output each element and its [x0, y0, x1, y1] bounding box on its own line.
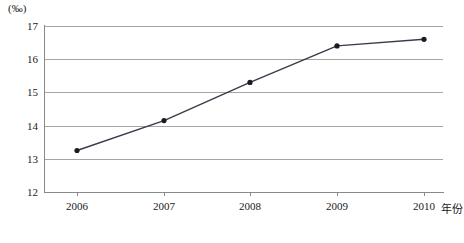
x-tick-label-2008: 2008 — [220, 200, 280, 212]
y-tick-label-17: 17 — [4, 20, 38, 32]
y-tick-label-14: 14 — [4, 120, 38, 132]
x-tick-label-2009: 2009 — [307, 200, 367, 212]
gridline-15 — [44, 92, 443, 93]
y-tick-label-12: 12 — [4, 186, 38, 198]
data-point-2010 — [421, 37, 426, 42]
x-axis-line — [44, 192, 444, 193]
x-tick-mark-2006 — [77, 192, 78, 196]
gridline-14 — [44, 126, 443, 127]
y-axis-line — [44, 25, 45, 193]
gridline-17 — [44, 26, 443, 27]
data-point-2009 — [334, 43, 339, 48]
data-point-2006 — [74, 148, 79, 153]
gridline-13 — [44, 159, 443, 160]
y-tick-label-13: 13 — [4, 153, 38, 165]
y-tick-label-16: 16 — [4, 53, 38, 65]
gridline-16 — [44, 59, 443, 60]
data-point-2008 — [247, 80, 252, 85]
y-axis-unit-label: (‰) — [8, 2, 26, 14]
data-point-2007 — [161, 118, 166, 123]
chart-screenshot: (‰) 17 16 15 14 13 12 2006 2007 2008 200… — [0, 0, 464, 243]
x-tick-mark-2009 — [337, 192, 338, 196]
y-tick-label-15: 15 — [4, 86, 38, 98]
x-tick-label-2006: 2006 — [47, 200, 107, 212]
x-tick-mark-2010 — [424, 192, 425, 196]
x-tick-label-2007: 2007 — [134, 200, 194, 212]
x-tick-mark-2008 — [250, 192, 251, 196]
x-axis-title: 年份 — [441, 200, 463, 216]
x-tick-mark-2007 — [164, 192, 165, 196]
